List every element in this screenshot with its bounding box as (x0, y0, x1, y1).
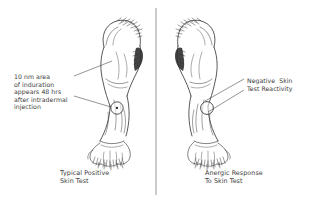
negative-reactivity-annotation-label: Negative Skin Test Reactivity (247, 77, 293, 92)
tuberculin-skin-test-figure: .ln{fill:none;stroke:#2e2e2e;stroke-line… (0, 0, 312, 203)
right-arm-drawing (175, 18, 230, 170)
negative-test-circle-right (201, 102, 214, 115)
leader-lines-left (74, 61, 112, 107)
induration-marking-left (111, 102, 123, 114)
induration-annotation-label: 10 nm area of induration appears 48 hrs … (14, 73, 68, 111)
left-arm-drawing (88, 18, 143, 170)
right-panel-caption: Anergic Response To Skin Test (205, 169, 263, 185)
left-panel-caption: Typical Positive Skin Test (60, 169, 109, 185)
